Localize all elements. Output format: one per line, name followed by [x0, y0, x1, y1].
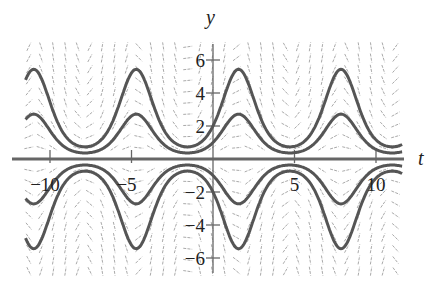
- slope-segment: [296, 65, 299, 73]
- slope-segment: [135, 89, 142, 94]
- y-tick-label: 4: [196, 83, 206, 104]
- y-tick-label: −2: [185, 182, 205, 203]
- slope-segment: [392, 202, 400, 206]
- slope-segment: [87, 77, 92, 84]
- slope-segment: [232, 181, 241, 182]
- slope-segment: [76, 88, 80, 96]
- slope-segment: [331, 190, 338, 196]
- slope-segment: [124, 110, 129, 118]
- slope-segment: [135, 78, 142, 84]
- slope-segment: [150, 267, 152, 276]
- slope-segment: [332, 222, 337, 230]
- slope-segment: [52, 256, 54, 265]
- slope-segment: [113, 222, 115, 231]
- slope-segment: [101, 267, 102, 276]
- slope-segment: [87, 234, 92, 241]
- slope-segment: [391, 191, 399, 194]
- slope-segment: [283, 54, 288, 62]
- slope-segment: [344, 223, 349, 230]
- slope-segment: [381, 110, 386, 117]
- slope-segment: [382, 42, 384, 51]
- slope-segment: [393, 43, 398, 50]
- slope-segment: [113, 211, 116, 220]
- slope-segment: [224, 267, 226, 276]
- slope-segment: [51, 121, 55, 129]
- slope-segment: [63, 121, 67, 129]
- slope-segment: [381, 200, 386, 207]
- slope-segment: [344, 212, 350, 219]
- slope-segment: [125, 244, 128, 253]
- slope-segment: [333, 54, 336, 62]
- slope-segment: [321, 244, 323, 253]
- slope-segment: [136, 268, 142, 275]
- slope-segment: [308, 200, 311, 208]
- slope-segment: [309, 54, 311, 63]
- slope-segment: [65, 65, 67, 74]
- y-tick-label: −4: [185, 215, 206, 236]
- slope-segment: [358, 267, 359, 276]
- slope-segment: [220, 146, 228, 150]
- slope-segment: [111, 168, 118, 173]
- slope-segment: [114, 54, 115, 63]
- slope-segment: [296, 245, 299, 253]
- slope-segment: [370, 267, 371, 276]
- slope-segment: [162, 244, 164, 253]
- slope-segment: [101, 222, 103, 231]
- y-tick-label: 6: [196, 50, 206, 71]
- slope-segment: [260, 244, 262, 253]
- slope-segment: [246, 200, 251, 208]
- slope-segment: [86, 201, 93, 207]
- slope-segment: [392, 112, 400, 116]
- slope-segment: [24, 147, 33, 149]
- slope-segment: [87, 88, 93, 95]
- slope-segment: [88, 43, 92, 51]
- slope-segment: [87, 100, 93, 106]
- slope-segment: [260, 65, 262, 74]
- slope-segment: [245, 169, 253, 172]
- slope-segment: [330, 147, 339, 149]
- slope-segment: [221, 178, 227, 185]
- slope-segment: [391, 124, 399, 127]
- slope-segment: [283, 66, 288, 73]
- slope-segment: [357, 121, 361, 129]
- slope-segment: [370, 233, 372, 242]
- slope-segment: [25, 123, 33, 128]
- slope-segment: [308, 121, 312, 129]
- slope-segment: [174, 233, 177, 242]
- slope-segment: [39, 222, 43, 230]
- slope-segment: [257, 145, 264, 150]
- slope-segment: [183, 91, 192, 92]
- slope-segment: [296, 233, 300, 241]
- slope-segment: [101, 65, 103, 74]
- slope-segment: [27, 43, 31, 51]
- slope-segment: [343, 190, 350, 195]
- slope-segment: [358, 76, 360, 85]
- slope-segment: [174, 65, 176, 74]
- slope-segment: [260, 99, 263, 108]
- slope-segment: [309, 211, 312, 220]
- slope-segment: [113, 87, 115, 96]
- slope-segment: [114, 267, 115, 276]
- slope-segment: [125, 42, 127, 51]
- slope-segment: [282, 88, 288, 95]
- slope-segment: [331, 123, 338, 129]
- slope-segment: [333, 256, 336, 264]
- slope-segment: [64, 200, 67, 208]
- slope-segment: [86, 123, 94, 128]
- slope-segment: [113, 99, 116, 108]
- slope-segment: [330, 179, 338, 183]
- slope-segment: [173, 110, 177, 118]
- slope-segment: [370, 244, 372, 253]
- slope-segment: [64, 110, 67, 118]
- slope-segment: [88, 256, 92, 264]
- slope-segment: [342, 147, 351, 149]
- slope-segment: [294, 134, 302, 139]
- slope-segment: [175, 267, 177, 276]
- slope-segment: [86, 180, 94, 183]
- slope-segment: [309, 222, 311, 231]
- slope-segment: [260, 256, 261, 265]
- slope-segment: [52, 54, 54, 63]
- slope-segment: [52, 76, 54, 85]
- slope-segment: [342, 169, 351, 171]
- slope-segment: [183, 57, 192, 58]
